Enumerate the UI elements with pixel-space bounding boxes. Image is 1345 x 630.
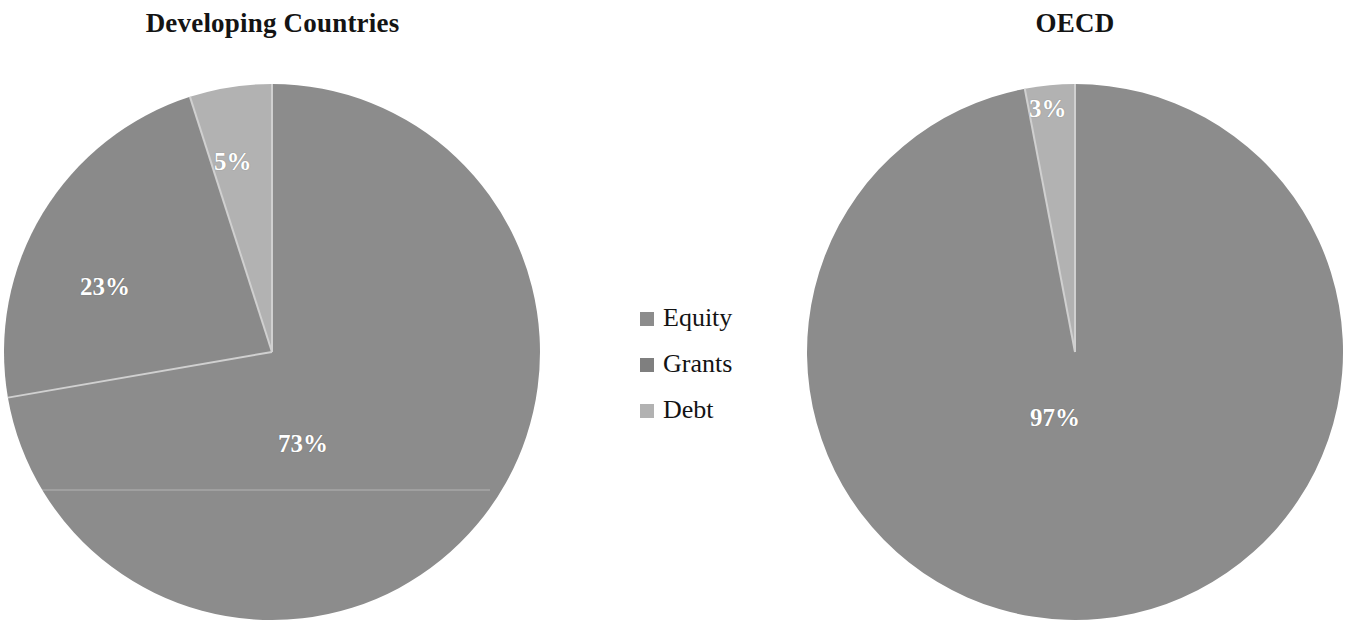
legend-swatch-grants-icon (640, 358, 654, 372)
pie-svg-developing-countries (4, 84, 540, 620)
legend-item-equity: Equity (640, 295, 790, 341)
legend-swatch-debt-icon (640, 404, 654, 418)
slice-label-developing-debt: 5% (214, 148, 252, 176)
legend-item-grants: Grants (640, 341, 790, 387)
legend-swatch-equity-icon (640, 312, 654, 326)
slice-label-developing-grants: 23% (80, 273, 130, 301)
legend-label-equity: Equity (663, 305, 732, 331)
legend-label-debt: Debt (663, 397, 714, 423)
slice-label-oecd-equity: 97% (1030, 404, 1080, 432)
slice-label-developing-equity: 73% (278, 430, 328, 458)
legend-label-grants: Grants (663, 351, 732, 377)
pie-chart-oecd (807, 84, 1343, 620)
scan-artifact-top (0, 79, 1333, 81)
pie-svg-oecd (807, 84, 1343, 620)
slice-label-oecd-debt: 3% (1029, 95, 1067, 123)
pie-chart-developing-countries (4, 84, 540, 620)
chart-legend: Equity Grants Debt (640, 295, 790, 433)
chart-title-oecd: OECD (805, 8, 1345, 39)
chart-title-developing-countries: Developing Countries (0, 8, 545, 39)
legend-item-debt: Debt (640, 387, 790, 433)
